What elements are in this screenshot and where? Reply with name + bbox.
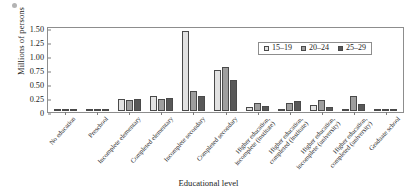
bar [198,96,205,111]
bar [126,100,133,111]
bar [230,80,237,111]
bar [278,109,285,111]
legend-label: 25–29 [346,44,366,52]
legend-swatch-icon [338,46,343,51]
bar [54,109,61,111]
y-axis-tick-label: 0.75 [30,67,48,76]
bar-group [145,29,177,111]
bar [222,67,229,111]
x-axis-tick-label: No education [48,115,77,146]
bar [166,98,173,111]
legend-item: 15–19 [264,44,292,52]
bar [214,70,221,111]
y-axis-title: Millions of persons [16,0,26,86]
bar [318,100,325,111]
bar [374,109,381,111]
chart-figure: Millions of persons 00.250.500.751.001.2… [0,0,417,194]
bar [310,105,317,111]
x-axis-title: Educational level [0,178,417,188]
y-axis-tick-label: 0.50 [30,81,48,90]
bar-group [209,29,241,111]
bar-group [81,29,113,111]
bar-group [370,29,402,111]
legend-swatch-icon [301,46,306,51]
legend: 15–19 20–24 25–29 [258,42,372,55]
bar [246,107,253,111]
bar [190,91,197,111]
bar [350,96,357,111]
bar [294,101,301,111]
bar [70,109,77,111]
bar [118,99,125,111]
bar [182,31,189,111]
x-axis-tick-label: Graduate school [367,115,401,152]
bar [150,96,157,111]
legend-label: 15–19 [272,44,292,52]
bar [286,103,293,111]
legend-label: 20–24 [309,44,329,52]
y-axis-tick-label: 1.25 [30,39,48,48]
legend-swatch-icon [264,46,269,51]
bar [342,109,349,111]
x-axis-tick-label: Preschool [86,115,109,139]
legend-item: 20–24 [301,44,329,52]
plot-area: 00.250.500.751.001.251.50 [47,27,404,113]
x-axis-tick-labels: No educationPreschoolIncomplete elementa… [47,113,404,175]
bar [94,109,101,111]
bar-group [177,29,209,111]
bar [326,107,333,111]
bar [62,109,69,111]
bar [390,109,397,111]
y-axis-tick-label: 1.00 [30,53,48,62]
legend-item: 25–29 [338,44,366,52]
bar-group [113,29,145,111]
y-axis-tick-label: 0.25 [30,95,48,104]
bar [262,106,269,111]
bar-group [49,29,81,111]
bar [102,109,109,111]
bar [382,109,389,111]
y-axis-tick-label: 1.50 [30,25,48,34]
bar [86,109,93,111]
bar [158,99,165,111]
bar [254,103,261,111]
bar [358,104,365,111]
bar [134,99,141,111]
